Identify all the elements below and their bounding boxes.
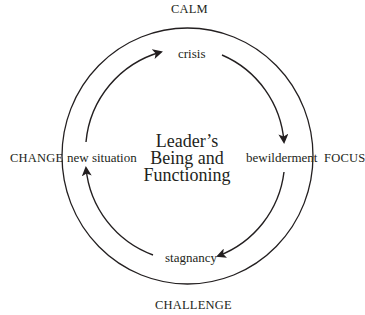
stage-stagnancy: stagnancy [165,251,217,264]
stage-new-situation: new situation [67,151,137,164]
center-title: Leader’s Being and Functioning [137,133,237,184]
stage-bewilderment: bewilderment [246,151,317,164]
label-focus: FOCUS [324,152,365,165]
label-change: CHANGE [10,152,63,165]
label-calm: CALM [171,3,208,16]
stage-crisis: crisis [178,47,205,60]
label-challenge: CHALLENGE [155,299,232,312]
arrow-crisis-to-bewilderment [222,55,284,142]
center-title-line-3: Functioning [137,167,237,184]
arrow-new-situation-to-crisis [86,52,161,142]
